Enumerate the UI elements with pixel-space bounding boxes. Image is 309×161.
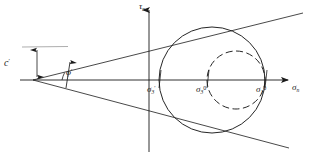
sigma-superscript: ′: [154, 85, 155, 91]
tick-label-sigma-3-zero: σ30: [196, 85, 206, 95]
failure-envelope-upper-line: [33, 13, 303, 80]
cohesion-label: c′: [4, 58, 10, 68]
figure-canvas: [0, 0, 309, 161]
friction-angle-arc: [62, 73, 65, 80]
normal-stress-axis-label: σn: [292, 83, 299, 93]
cohesion-leader-line: [22, 47, 68, 48]
tick-label-sigma-1-zero: σ10: [256, 85, 266, 95]
shear-stress-axis-label: τn: [139, 2, 145, 12]
c-superscript: ′: [8, 57, 9, 64]
mohr-circle-figure: τn σn σ3′ σ30 σ10 c′ φ′: [0, 0, 309, 161]
tau-subscript: n: [142, 6, 145, 12]
friction-angle-label: φ′: [66, 68, 72, 77]
sigma-superscript: 0: [263, 85, 266, 91]
tick-label-sigma-3-prime: σ3′: [147, 85, 156, 95]
phi-superscript: ′: [71, 68, 72, 74]
failure-envelope-lower-line: [33, 80, 289, 148]
sigma-subscript: n: [296, 87, 299, 93]
sigma-superscript: 0: [203, 85, 206, 91]
